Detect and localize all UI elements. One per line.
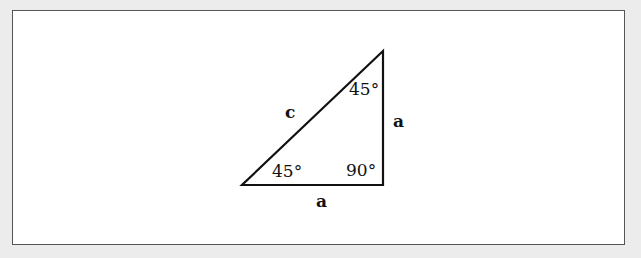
- right-angle-label: 90°: [346, 162, 376, 179]
- horizontal-leg-label: a: [316, 193, 327, 210]
- hypotenuse-label: c: [285, 104, 295, 121]
- top-angle-label: 45°: [349, 81, 379, 98]
- right-triangle: [0, 0, 641, 258]
- vertical-leg-label: a: [393, 113, 404, 130]
- bottom-left-angle-label: 45°: [272, 163, 302, 180]
